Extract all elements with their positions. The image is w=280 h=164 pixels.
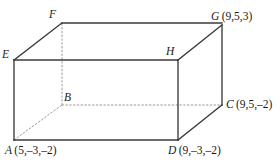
vertex-letter-C: C xyxy=(226,98,234,110)
edge-H-G xyxy=(178,25,222,60)
hidden-edges xyxy=(14,23,222,140)
vertex-letter-A: A xyxy=(5,144,12,156)
vertex-label-D: D (9,–3,–2) xyxy=(168,145,221,157)
vertex-letter-H: H xyxy=(166,45,174,57)
edge-D-C xyxy=(178,105,222,140)
edge-E-F xyxy=(14,23,62,60)
vertex-label-B: B xyxy=(64,92,71,104)
vertex-coords-D: (9,–3,–2) xyxy=(179,144,221,156)
visible-edges xyxy=(14,23,222,140)
vertex-coords-G: (9,5,3) xyxy=(222,10,253,22)
vertex-letter-B: B xyxy=(64,91,71,103)
vertex-coords-A: (5,–3,–2) xyxy=(14,144,56,156)
vertex-label-F: F xyxy=(49,9,56,21)
vertex-coords-C: (9,5,–2) xyxy=(236,98,272,110)
vertex-label-E: E xyxy=(2,49,9,61)
vertex-label-A: A (5,–3,–2) xyxy=(5,145,57,157)
edge-A-B xyxy=(14,105,62,140)
vertex-label-H: H xyxy=(166,46,174,58)
vertex-letter-G: G xyxy=(211,10,219,22)
vertex-label-C: C (9,5,–2) xyxy=(226,99,272,111)
vertex-label-G: G (9,5,3) xyxy=(211,11,252,23)
geometry-figure: F G (9,5,3) E H B C (9,5,–2) A (5,–3,–2)… xyxy=(0,0,280,164)
vertex-letter-F: F xyxy=(49,8,56,20)
box-diagram xyxy=(0,0,280,164)
vertex-letter-D: D xyxy=(168,144,176,156)
vertex-letter-E: E xyxy=(2,48,9,60)
